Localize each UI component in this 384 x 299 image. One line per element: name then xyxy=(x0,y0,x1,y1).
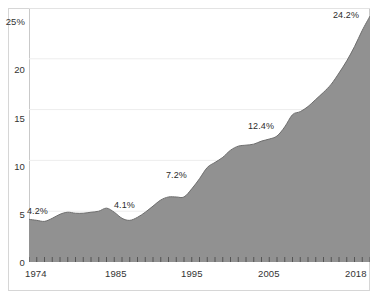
data-series-area xyxy=(29,16,370,262)
area-chart-plot xyxy=(29,8,370,262)
y-axis-label-5: 5 xyxy=(0,209,25,220)
x-axis-label-2005: 2005 xyxy=(258,268,280,279)
chart-container: 25% 20 15 10 5 0 1974 1985 1995 2005 201… xyxy=(0,0,384,299)
y-axis-label-15: 15 xyxy=(0,113,25,124)
y-axis-label-0: 0 xyxy=(0,257,25,268)
data-label-24-2: 24.2% xyxy=(333,10,359,20)
y-axis-label-10: 10 xyxy=(0,161,25,172)
x-axis-label-1985: 1985 xyxy=(105,268,127,279)
y-axis-label-20: 20 xyxy=(0,64,25,75)
y-axis-label-25: 25% xyxy=(0,16,25,27)
data-label-7-2: 7.2% xyxy=(166,170,187,180)
data-label-4-1: 4.1% xyxy=(114,200,135,210)
x-axis-label-1974: 1974 xyxy=(25,268,47,279)
x-axis-label-2018: 2018 xyxy=(345,268,367,279)
x-axis-label-1995: 1995 xyxy=(181,268,203,279)
data-label-12-4: 12.4% xyxy=(248,121,274,131)
data-label-4-2: 4.2% xyxy=(27,206,48,216)
